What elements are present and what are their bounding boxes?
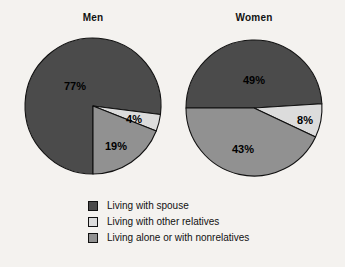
legend-swatch-other-relatives: [88, 217, 98, 227]
pie-men: 77% 4% 19%: [25, 38, 161, 174]
pie-women: 49% 8% 43%: [186, 40, 322, 176]
legend-item-alone: Living alone or with nonrelatives: [88, 231, 249, 244]
legend-item-other-relatives: Living with other relatives: [88, 215, 249, 228]
pie-label-men-spouse: 77%: [64, 80, 86, 92]
legend-swatch-alone: [88, 233, 98, 243]
pie-label-men-alone: 19%: [105, 140, 127, 152]
pie-label-women-other-relatives: 8%: [297, 114, 313, 126]
legend-item-spouse: Living with spouse: [88, 199, 249, 212]
pie-label-women-alone: 43%: [232, 143, 254, 155]
legend-label-alone: Living alone or with nonrelatives: [107, 232, 249, 243]
legend-swatch-spouse: [88, 201, 98, 211]
pie-label-women-spouse: 49%: [243, 74, 265, 86]
pie-label-men-other-relatives: 4%: [126, 113, 142, 125]
legend-label-other-relatives: Living with other relatives: [107, 216, 219, 227]
pie-chart-figure: Men Women 77% 4% 19% 49% 8% 43%: [0, 0, 345, 267]
legend-label-spouse: Living with spouse: [107, 200, 189, 211]
legend: Living with spouse Living with other rel…: [88, 199, 249, 244]
